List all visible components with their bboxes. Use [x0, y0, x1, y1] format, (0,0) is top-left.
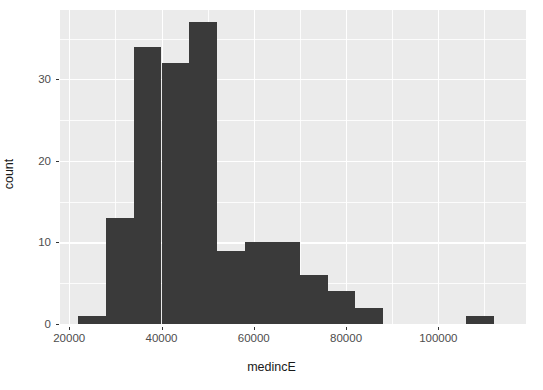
histogram-bar: [134, 47, 162, 324]
y-tick-label: 30: [28, 73, 51, 85]
histogram-bar: [355, 308, 383, 324]
histogram-bar: [217, 251, 245, 324]
histogram-bar: [272, 242, 300, 324]
histogram-bar: [162, 63, 190, 324]
y-tick-mark: [56, 324, 59, 325]
x-tick-label: 20000: [53, 332, 85, 344]
y-tick-label: 0: [28, 318, 51, 330]
histogram-bar: [466, 316, 494, 324]
x-tick-mark: [438, 327, 439, 330]
bars-layer: [60, 10, 526, 324]
y-axis-label: count: [2, 159, 16, 190]
x-axis-label: medincE: [0, 360, 543, 374]
x-tick-mark: [346, 327, 347, 330]
y-tick-mark: [56, 161, 59, 162]
histogram-bar: [78, 316, 106, 324]
x-tick-mark: [69, 327, 70, 330]
x-tick-label: 100000: [419, 332, 457, 344]
y-tick-mark: [56, 242, 59, 243]
histogram-bar: [245, 242, 273, 324]
x-tick-label: 40000: [146, 332, 178, 344]
x-tick-mark: [162, 327, 163, 330]
plot-panel: [60, 10, 526, 324]
histogram-bar: [106, 218, 134, 324]
x-tick-mark: [254, 327, 255, 330]
histogram-bar: [189, 22, 217, 324]
y-tick-label: 10: [28, 236, 51, 248]
histogram-bar: [328, 291, 356, 324]
y-tick-mark: [56, 79, 59, 80]
y-tick-label: 20: [28, 155, 51, 167]
histogram-chart: medincE count 20000400006000080000100000…: [0, 0, 543, 390]
histogram-bar: [300, 275, 328, 324]
x-tick-label: 60000: [238, 332, 270, 344]
x-tick-label: 80000: [330, 332, 362, 344]
